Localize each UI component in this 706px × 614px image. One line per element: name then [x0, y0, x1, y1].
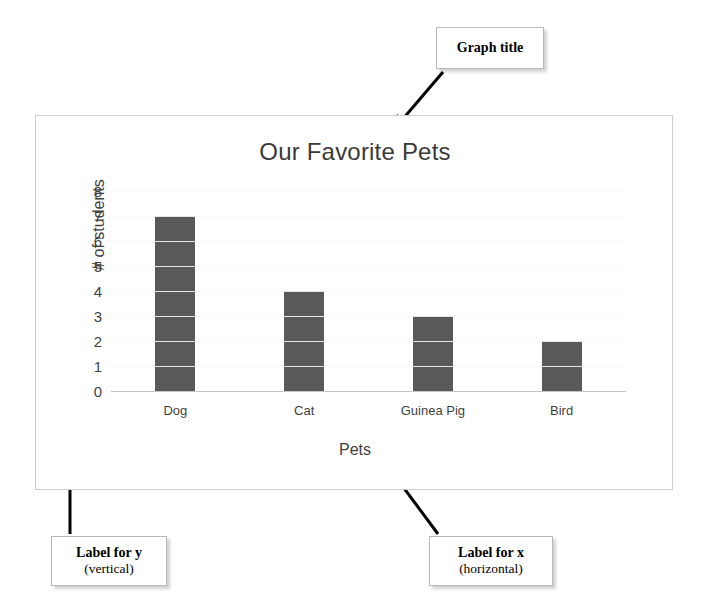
callout-label-y-text: Label for y — [76, 544, 142, 562]
y-axis-tick-label: 6 — [94, 234, 102, 249]
gridline-overlay — [111, 266, 626, 267]
x-axis-tick-label: Dog — [163, 403, 187, 418]
gridline — [111, 391, 626, 392]
y-axis-tick-label: 4 — [94, 284, 102, 299]
gridline-overlay — [111, 216, 626, 217]
gridline-overlay — [111, 241, 626, 242]
y-axis-tick-label: 8 — [94, 184, 102, 199]
y-axis-tick-label: 0 — [94, 384, 102, 399]
y-axis-tick-label: 3 — [94, 309, 102, 324]
bar-dog[interactable] — [155, 216, 195, 391]
callout-graph-title: Graph title — [436, 27, 544, 69]
y-axis-tick-label: 5 — [94, 259, 102, 274]
gridline-overlay — [111, 316, 626, 317]
callout-label-x-subtext: (horizontal) — [459, 561, 523, 578]
callout-label-x: Label for x (horizontal) — [429, 536, 553, 586]
plot-area: 876543210DogCatGuinea PigBird — [111, 191, 626, 391]
gridline-overlay — [111, 341, 626, 342]
chart-title: Our Favorite Pets — [36, 138, 674, 166]
callout-graph-title-text: Graph title — [457, 39, 524, 57]
callout-label-y-subtext: (vertical) — [84, 561, 133, 578]
gridline-overlay — [111, 366, 626, 367]
y-axis-tick-label: 1 — [94, 359, 102, 374]
callout-label-y: Label for y (vertical) — [51, 536, 167, 586]
y-axis-tick-label: 7 — [94, 209, 102, 224]
chart-container: Our Favorite Pets # of students 87654321… — [35, 115, 673, 490]
gridline-overlay — [111, 291, 626, 292]
x-axis-tick-label: Bird — [550, 403, 573, 418]
gridline-overlay — [111, 191, 626, 192]
x-axis-title: Pets — [36, 441, 674, 459]
bar-guinea-pig[interactable] — [413, 316, 453, 391]
y-axis-tick-label: 2 — [94, 334, 102, 349]
x-axis-tick-label: Guinea Pig — [401, 403, 465, 418]
y-axis-title: # of students — [90, 150, 108, 300]
callout-label-x-text: Label for x — [458, 544, 524, 562]
x-axis-tick-label: Cat — [294, 403, 314, 418]
